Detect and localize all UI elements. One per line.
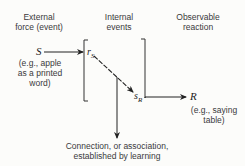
response-label: R <box>190 90 197 102</box>
internal-stimulus-label: sR <box>134 90 142 104</box>
learning-caption: Connection, or association, established … <box>56 141 178 161</box>
response-arrow <box>145 97 186 98</box>
stimulus-example: (e.g., apple as a printed word) <box>12 58 68 88</box>
stimulus-label: S <box>36 45 42 57</box>
internal-response-label: rS <box>87 46 94 60</box>
internal-link-arrow <box>94 56 133 92</box>
response-example: (e.g., saying table) <box>186 105 242 125</box>
